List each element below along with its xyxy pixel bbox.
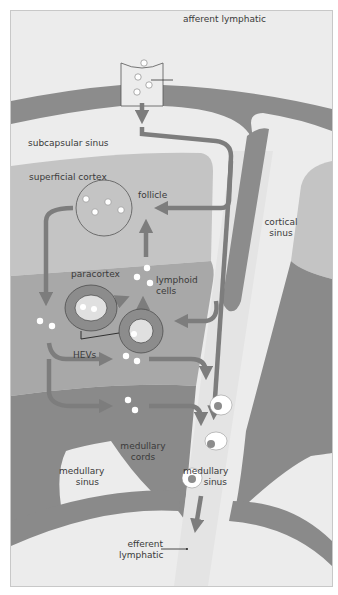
hev-1: [65, 285, 117, 331]
label-lymphoid-cells: lymphoidcells: [156, 275, 198, 297]
label-paracortex: paracortex: [71, 269, 120, 280]
lymph-node-diagram: afferent lymphatic subcapsular sinus sup…: [10, 10, 333, 587]
label-medullary-sinus-right: medullarysinus: [183, 466, 227, 488]
label-medullary-sinus-left: medullarysinus: [59, 466, 99, 488]
label-cortical-sinus: corticalsinus: [263, 217, 299, 239]
label-follicle: follicle: [138, 190, 167, 201]
diagram-graphics: [11, 11, 332, 586]
label-subcapsular-sinus: subcapsular sinus: [28, 138, 109, 149]
label-superficial-cortex: superficial cortex: [29, 172, 107, 183]
label-hevs: HEVs: [73, 350, 96, 361]
afferent-lymphatic-tube: [121, 63, 163, 106]
hev-2: [119, 309, 163, 353]
label-efferent-lymphatic: efferentlymphatic: [119, 539, 163, 561]
label-medullary-cords: medullarycords: [119, 441, 167, 463]
label-afferent-lymphatic: afferent lymphatic: [183, 14, 266, 25]
